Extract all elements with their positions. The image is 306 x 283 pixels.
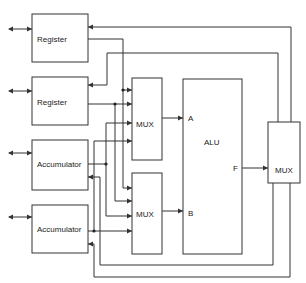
register1-label: Register: [37, 35, 67, 44]
junction-dot: [104, 162, 107, 165]
register2-label: Register: [37, 98, 67, 107]
accumulator1-out-to-mux-b: [106, 164, 132, 216]
feedback-accumulator1: [88, 177, 273, 265]
mux-a-label: MUX: [136, 120, 154, 129]
junction-dot: [92, 229, 95, 232]
mux-b-label: MUX: [136, 210, 154, 219]
output-mux-label: MUX: [275, 166, 293, 175]
accumulator1-block: Accumulator: [32, 140, 88, 190]
junction-dot: [121, 88, 124, 91]
junction-dot: [113, 102, 116, 105]
accumulator1-label: Accumulator: [37, 160, 82, 169]
register1-block: Register: [32, 14, 88, 62]
mux-b-block: MUX: [132, 173, 162, 254]
output-mux-block: MUX: [268, 122, 300, 183]
accumulator2-block: Accumulator: [32, 205, 88, 253]
mux-a-block: MUX: [132, 78, 162, 160]
accumulator1-out-to-mux-a: [106, 123, 132, 164]
alu-block: ALU A B F: [183, 79, 242, 254]
register2-block: Register: [32, 77, 88, 125]
alu-datapath-diagram: Register Register Accumulator Accumulato…: [0, 0, 306, 283]
alu-port-a: A: [188, 114, 194, 123]
alu-label: ALU: [204, 138, 220, 147]
alu-port-b: B: [188, 209, 193, 218]
accumulator2-label: Accumulator: [37, 225, 82, 234]
alu-port-f: F: [233, 164, 238, 173]
register1-out-to-mux-b: [88, 39, 132, 188]
